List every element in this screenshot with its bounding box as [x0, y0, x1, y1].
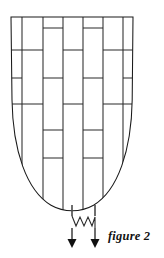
brick-vertical-joints [22, 17, 123, 212]
down-arrowheads [68, 239, 100, 248]
bullet-outline [11, 17, 133, 211]
figure-diagram: figure 2 [0, 0, 164, 258]
figure-caption: figure 2 [108, 229, 150, 244]
figure-svg [0, 0, 164, 258]
brick-pattern [8, 17, 136, 212]
brick-course-lines [8, 28, 136, 158]
break-symbol-icon [72, 216, 95, 228]
arrowhead-right-icon [91, 239, 100, 248]
arrowhead-left-icon [68, 239, 77, 248]
